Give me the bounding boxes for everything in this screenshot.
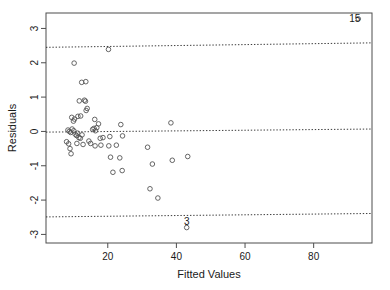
axis-ticks	[41, 28, 314, 248]
scatter-point	[101, 135, 106, 140]
annotation-outlier-3: 3	[184, 216, 190, 227]
scatter-point	[68, 146, 73, 151]
scatter-point	[120, 134, 125, 139]
y-axis-title: Residuals	[6, 103, 18, 152]
y-tick-label: -2	[30, 195, 41, 204]
scatter-point	[77, 99, 82, 104]
y-tick-label: 1	[30, 94, 41, 100]
y-tick-label: 0	[30, 128, 41, 134]
scatter-point	[145, 145, 150, 150]
reference-line-upper-bound	[46, 43, 372, 47]
annotation-outlier-15: 15	[349, 13, 361, 24]
scatter-point	[120, 168, 125, 173]
y-tick-label: -3	[30, 230, 41, 239]
x-axis-title: Fitted Values	[177, 268, 241, 280]
scatter-point	[108, 134, 113, 139]
scatter-point	[108, 155, 113, 160]
scatter-point	[119, 122, 124, 127]
y-tick-label: 2	[30, 60, 41, 66]
scatter-point	[99, 143, 104, 148]
scatter-point	[106, 144, 111, 149]
scatter-point	[111, 170, 116, 175]
data-points	[64, 17, 360, 230]
scatter-point	[114, 143, 119, 148]
scatter-point	[83, 99, 88, 104]
reference-line-lower-bound	[46, 213, 372, 216]
scatter-point	[170, 158, 175, 163]
scatter-point	[169, 121, 174, 126]
scatter-point	[150, 162, 155, 167]
scatter-point	[93, 144, 98, 149]
residual-plot-figure: 204060803210-1-2-3 153 Fitted Values Res…	[0, 0, 390, 290]
scatter-point	[156, 196, 161, 201]
scatter-point	[72, 61, 77, 66]
scatter-point	[92, 117, 97, 122]
scatter-point	[185, 154, 190, 159]
x-tick-label: 20	[102, 251, 114, 262]
x-tick-label: 60	[239, 251, 251, 262]
x-tick-label: 40	[171, 251, 183, 262]
scatter-point	[69, 151, 74, 156]
scatter-point	[75, 141, 80, 146]
x-tick-label: 80	[308, 251, 320, 262]
scatter-point	[148, 186, 153, 191]
scatter-point	[78, 114, 83, 119]
scatter-point	[81, 142, 86, 147]
y-tick-label: -1	[30, 161, 41, 170]
plot-canvas: 204060803210-1-2-3 153 Fitted Values Res…	[0, 0, 390, 290]
scatter-point	[117, 156, 122, 161]
y-tick-label: 3	[30, 25, 41, 31]
scatter-point	[106, 47, 111, 52]
